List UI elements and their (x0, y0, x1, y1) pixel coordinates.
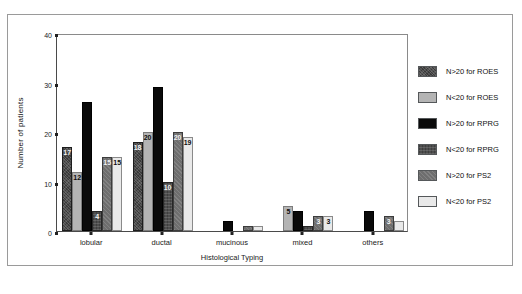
x-axis-labels: lobularductalmucinousmixedothers (56, 234, 408, 248)
legend-item-label: N>20 for ROES (446, 67, 498, 76)
bar-value-label: 17 (63, 149, 71, 156)
bar: 19 (183, 137, 193, 231)
y-axis-tick (55, 84, 58, 87)
plot-area: 01020304017124151518201020195333 (56, 34, 408, 232)
y-axis-tick-label: 20 (44, 131, 52, 138)
legend-item[interactable]: N<20 for ROES (418, 84, 514, 110)
x-axis-tick (160, 232, 163, 235)
bar (303, 226, 313, 231)
y-axis-tick-label: 30 (44, 81, 52, 88)
bar: 18 (133, 142, 143, 231)
chart-figure: Number of patients 010203040171241515182… (0, 0, 522, 294)
chart-legend: N>20 for ROESN<20 for ROESN>20 for RPRGN… (418, 58, 514, 214)
bar (153, 87, 163, 231)
legend-swatch-icon (418, 170, 437, 181)
bar-value-label: 3 (326, 218, 330, 225)
legend-item-label: N<20 for PS2 (446, 197, 491, 206)
bar-value-label: 15 (103, 159, 111, 166)
bar-value-label: 20 (144, 134, 152, 141)
y-axis-tick (55, 133, 58, 136)
legend-item[interactable]: N>20 for ROES (418, 58, 514, 84)
y-axis-tick (55, 183, 58, 186)
bar (253, 226, 263, 231)
x-axis-tick-label: lobular (80, 238, 103, 247)
bar: 3 (323, 216, 333, 231)
legend-item-label: N>20 for RPRG (446, 119, 499, 128)
legend-item[interactable]: N<20 for RPRG (418, 136, 514, 162)
legend-item[interactable]: N>20 for RPRG (418, 110, 514, 136)
legend-item-label: N>20 for PS2 (446, 171, 491, 180)
y-axis-tick-label: 0 (48, 230, 52, 237)
bar-value-label: 18 (134, 144, 142, 151)
bar-value-label: 19 (184, 139, 192, 146)
x-axis-tick-label: others (362, 238, 383, 247)
y-axis-tick-label: 40 (44, 32, 52, 39)
legend-item[interactable]: N<20 for PS2 (418, 188, 514, 214)
x-axis-tick-label: mixed (292, 238, 312, 247)
bar-value-label: 3 (316, 218, 320, 225)
bar-value-label: 5 (286, 208, 290, 215)
bar (82, 102, 92, 231)
bar-value-label: 4 (95, 213, 99, 220)
bar: 15 (102, 157, 112, 231)
bar-value-label: 20 (174, 134, 182, 141)
bar: 3 (313, 216, 323, 231)
bar (243, 226, 253, 231)
bar-value-label: 12 (73, 174, 81, 181)
legend-item[interactable]: N>20 for PS2 (418, 162, 514, 188)
legend-swatch-icon (418, 66, 437, 77)
x-axis-tick (371, 232, 374, 235)
x-axis-tick (301, 232, 304, 235)
legend-swatch-icon (418, 92, 437, 103)
legend-item-label: N<20 for ROES (446, 93, 498, 102)
bar: 10 (163, 182, 173, 232)
x-axis-tick-label: ductal (152, 238, 172, 247)
x-axis-title: Histological Typing (56, 253, 408, 262)
bar: 17 (62, 147, 72, 231)
y-axis-tick (55, 34, 58, 37)
bar: 15 (112, 157, 122, 231)
bar-value-label: 10 (164, 184, 172, 191)
bar: 4 (92, 211, 102, 231)
x-axis-tick-label: mucinous (216, 238, 248, 247)
bar: 20 (143, 132, 153, 231)
bar: 20 (173, 132, 183, 231)
bar (364, 211, 374, 231)
y-axis-tick-label: 10 (44, 180, 52, 187)
bar (394, 221, 404, 231)
bar-value-label: 3 (387, 218, 391, 225)
bar-value-label: 15 (113, 159, 121, 166)
legend-item-label: N<20 for RPRG (446, 145, 499, 154)
y-axis-title: Number of patients (13, 34, 27, 232)
legend-swatch-icon (418, 144, 437, 155)
bar (293, 211, 303, 231)
x-axis-tick (90, 232, 93, 235)
bar: 5 (283, 206, 293, 231)
bar: 12 (72, 172, 82, 231)
bar: 3 (384, 216, 394, 231)
x-axis-tick (231, 232, 234, 235)
legend-swatch-icon (418, 118, 437, 129)
bar (223, 221, 233, 231)
legend-swatch-icon (418, 196, 437, 207)
